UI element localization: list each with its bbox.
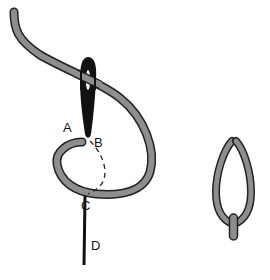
label-b: B <box>94 135 103 150</box>
label-a: A <box>63 120 72 135</box>
label-d: D <box>91 238 100 253</box>
tacking-stitch <box>230 214 238 240</box>
finished-loop-left <box>216 141 233 224</box>
label-c: C <box>81 198 90 213</box>
working-stitch-figure: A B C D <box>14 12 152 265</box>
needle <box>80 57 96 138</box>
finished-stitch-figure <box>216 141 251 240</box>
stitch-diagram: A B C D <box>0 0 270 280</box>
finished-loop-right <box>234 141 251 224</box>
